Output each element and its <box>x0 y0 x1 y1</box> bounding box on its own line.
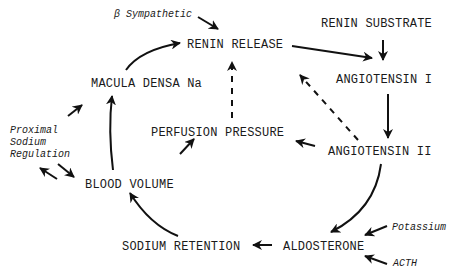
node-macula-densa: MACULA DENSA Na <box>91 77 202 91</box>
modifier-proximal-line3: Regulation <box>10 148 70 161</box>
modifier-beta-sympathetic: β Sympathetic <box>114 8 192 21</box>
modifier-potassium: Potassium <box>392 221 446 234</box>
arrow-blood-to-macula <box>110 96 113 170</box>
arrow-macula-to-renin <box>126 43 180 70</box>
arrow-blood-to-proximal <box>40 168 57 179</box>
modifier-acth: ACTH <box>393 257 417 270</box>
node-perfusion-pressure: PERFUSION PRESSURE <box>151 126 284 140</box>
arrow-sympathetic-to-renin <box>198 17 218 29</box>
node-blood-volume: BLOOD VOLUME <box>85 178 174 192</box>
arrow-renin-to-angiotensin1 <box>292 46 372 58</box>
arrow-proximal-to-blood <box>58 164 74 177</box>
arrow-potassium-to-aldosterone <box>365 226 387 235</box>
node-sodium-retention: SODIUM RETENTION <box>122 240 240 254</box>
node-angiotensin-1: ANGIOTENSIN I <box>336 73 432 87</box>
node-renin-release: RENIN RELEASE <box>187 38 283 52</box>
node-angiotensin-2: ANGIOTENSIN II <box>328 145 432 159</box>
arrow-sodium-to-blood <box>130 193 178 236</box>
node-aldosterone: ALDOSTERONE <box>283 240 364 254</box>
arrow-blood-to-perfusion <box>180 139 194 154</box>
arrow-angiotensin2-to-aldosterone <box>331 164 381 232</box>
arrow-proximal-to-macula <box>68 105 82 116</box>
raas-diagram: RENIN RELEASE RENIN SUBSTRATE ANGIOTENSI… <box>0 0 455 275</box>
node-renin-substrate: RENIN SUBSTRATE <box>321 17 432 31</box>
arrow-acth-to-aldosterone <box>365 256 387 264</box>
arrow-angiotensin2-to-perfusion <box>296 141 315 146</box>
